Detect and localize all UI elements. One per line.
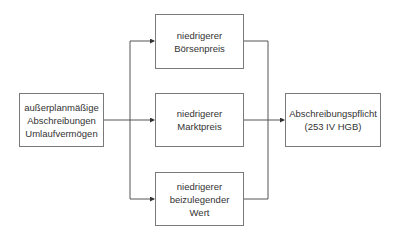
source-line-2: Abschreibungen: [24, 114, 98, 127]
target-line-1: Abschreibungspflicht: [289, 107, 377, 120]
option-3-line-1: niedrigerer: [170, 180, 230, 193]
option-3-line-3: Wert: [170, 206, 230, 219]
option-2-line-1: niedrigerer: [177, 107, 222, 120]
option-box-boersenpreis: niedrigerer Börsenpreis: [155, 14, 244, 69]
target-box: Abschreibungspflicht (253 IV HGB): [285, 93, 381, 147]
option-1-line-1: niedrigerer: [174, 29, 225, 42]
source-box: außerplanmäßige Abschreibungen Umlaufver…: [19, 93, 104, 147]
option-box-beizulegender-wert: niedrigerer beizulegender Wert: [155, 172, 244, 226]
option-1-line-2: Börsenpreis: [174, 42, 225, 55]
target-line-2: (253 IV HGB): [289, 120, 377, 133]
option-2-line-2: Marktpreis: [177, 120, 222, 133]
source-line-1: außerplanmäßige: [24, 101, 98, 114]
source-line-3: Umlaufvermögen: [24, 127, 98, 140]
option-3-line-2: beizulegender: [170, 193, 230, 206]
option-box-marktpreis: niedrigerer Marktpreis: [155, 93, 244, 147]
